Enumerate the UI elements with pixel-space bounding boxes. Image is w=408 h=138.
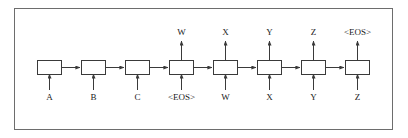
- rnn-cell-2[interactable]: [81, 60, 106, 75]
- input-label-5: W: [221, 92, 230, 102]
- figure-container: A B C <EOS> W X Y Z W X Y Z <EOS>: [0, 0, 408, 138]
- rnn-cell-5[interactable]: [213, 60, 238, 75]
- input-label-1: A: [46, 92, 53, 102]
- input-label-8: Z: [355, 92, 361, 102]
- output-label-4: Z: [311, 27, 317, 37]
- output-connection-group: [182, 41, 358, 60]
- rnn-cell-1[interactable]: [37, 60, 62, 75]
- rnn-cell-3[interactable]: [125, 60, 150, 75]
- rnn-cell-8[interactable]: [345, 60, 370, 75]
- rnn-cell-4[interactable]: [169, 60, 194, 75]
- rnn-cell-6[interactable]: [257, 60, 282, 75]
- input-label-3: C: [134, 92, 140, 102]
- output-label-1: W: [177, 27, 186, 37]
- output-label-5: <EOS>: [344, 27, 371, 37]
- input-label-2: B: [90, 92, 96, 102]
- input-label-6: X: [266, 92, 273, 102]
- output-label-2: X: [222, 27, 229, 37]
- input-connection-group: [50, 74, 358, 90]
- input-label-7: Y: [310, 92, 317, 102]
- input-label-4: <EOS>: [168, 92, 195, 102]
- rnn-cell-7[interactable]: [301, 60, 326, 75]
- output-label-3: Y: [266, 27, 273, 37]
